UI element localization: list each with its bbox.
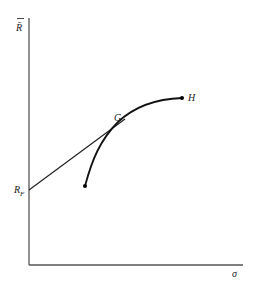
frontier-start-point (83, 184, 87, 188)
risk-free-label: RF (13, 184, 25, 198)
efficient-frontier-curve (85, 98, 182, 186)
point-g-label: G (114, 112, 121, 123)
x-axis-label: σ (232, 268, 238, 279)
y-axis-label: R̄ (15, 22, 22, 33)
point-h-label: H (187, 92, 196, 103)
efficient-frontier-diagram: R̄ σ RF G H (0, 0, 255, 286)
point-h (180, 96, 184, 100)
